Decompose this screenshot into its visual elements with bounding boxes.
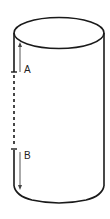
arrow-a-head-icon	[18, 42, 22, 47]
arrow-b-head-icon	[18, 185, 22, 190]
cylinder-diagram: A B	[0, 0, 110, 219]
label-a: A	[24, 64, 31, 75]
label-b: B	[24, 150, 31, 161]
cylinder-bottom-curve	[14, 186, 104, 203]
cylinder-top-ellipse	[14, 18, 104, 49]
